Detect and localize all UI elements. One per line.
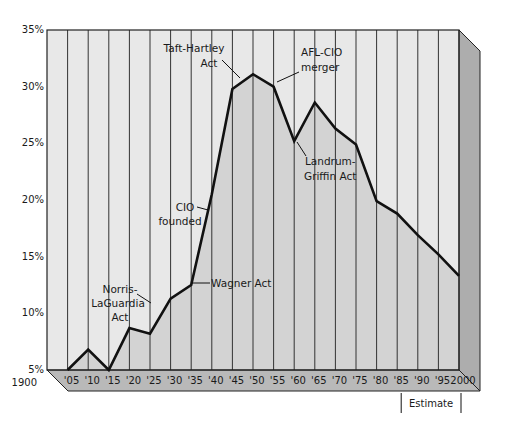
- annotation-label: Griffin Act: [304, 170, 356, 182]
- y-tick-label: 20%: [22, 194, 44, 205]
- annotation-label: LaGuardia: [91, 297, 145, 309]
- y-tick-label: 35%: [22, 24, 44, 35]
- x-tick-label: '30: [167, 375, 182, 386]
- x-tick-label: '20: [126, 375, 141, 386]
- x-tick-label: '70: [332, 375, 347, 386]
- union-membership-chart: 5%10%15%20%25%30%35% 1900'05'10'15'20'25…: [0, 0, 506, 425]
- estimate-bracket: Estimate: [401, 393, 461, 413]
- annotation-label: Act: [201, 57, 218, 69]
- x-tick-label: '65: [311, 375, 326, 386]
- x-tick-label: '25: [146, 375, 161, 386]
- annotation-label: founded: [158, 215, 201, 227]
- annotation-label: Landrum-: [305, 155, 356, 167]
- annotation-label: Act: [112, 311, 129, 323]
- y-tick-label: 25%: [22, 137, 44, 148]
- x-tick-label: '10: [84, 375, 99, 386]
- x-tick-label: '40: [208, 375, 223, 386]
- y-tick-label: 5%: [28, 364, 44, 375]
- x-tick-label: '45: [229, 375, 244, 386]
- x-tick-label: '85: [393, 375, 408, 386]
- y-tick-label: 30%: [22, 81, 44, 92]
- x-tick-label: 2000: [450, 375, 475, 386]
- x-tick-label: '75: [352, 375, 367, 386]
- x-tick-label: '55: [270, 375, 285, 386]
- x-tick-label: '05: [64, 375, 79, 386]
- x-tick-label: '15: [105, 375, 120, 386]
- y-axis-labels: 5%10%15%20%25%30%35%: [22, 24, 44, 375]
- y-tick-label: 10%: [22, 307, 44, 318]
- x-tick-label: '80: [373, 375, 388, 386]
- annotation-label: AFL-CIO: [301, 46, 342, 58]
- annotation-label: Norris-: [103, 283, 138, 295]
- y-tick-label: 15%: [22, 251, 44, 262]
- estimate-label: Estimate: [409, 398, 453, 409]
- annotation-label: Wagner Act: [211, 277, 271, 289]
- x-tick-label: '90: [414, 375, 429, 386]
- annotation-label: CIO: [176, 201, 195, 213]
- annotation-label: Taft-Hartley: [163, 42, 225, 54]
- x-tick-label: '35: [187, 375, 202, 386]
- x-tick-label: 1900: [12, 377, 37, 388]
- side-panel: [459, 30, 480, 391]
- annotation-label: merger: [301, 61, 340, 73]
- x-tick-label: '60: [290, 375, 305, 386]
- x-tick-label: '50: [249, 375, 264, 386]
- x-tick-label: '95: [435, 375, 450, 386]
